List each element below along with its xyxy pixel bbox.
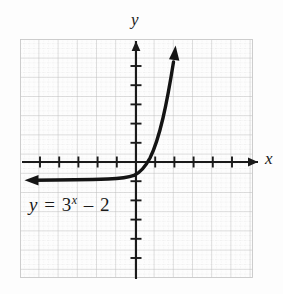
equation-constant: 2	[100, 194, 110, 215]
graph-figure: y x y = 3x – 2	[0, 0, 283, 294]
x-axis-label: x	[265, 150, 273, 167]
y-axis-label: y	[131, 11, 139, 28]
equation-lhs: y	[29, 194, 38, 215]
equation-base: 3	[62, 194, 72, 215]
equation-equals: =	[43, 194, 56, 215]
equation-exponent: x	[72, 193, 78, 207]
equation-minus: –	[83, 194, 95, 215]
equation-label: y = 3x – 2	[29, 195, 110, 214]
coordinate-plane	[0, 0, 283, 294]
